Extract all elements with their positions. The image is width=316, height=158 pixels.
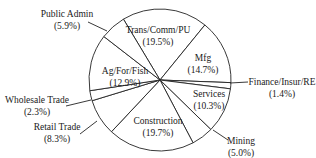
pct-ag: (12.9%): [110, 78, 141, 89]
leader-wholesale: [66, 100, 91, 106]
label-public-admin: Public Admin: [41, 9, 94, 19]
label-mining: Mining: [227, 136, 255, 146]
leader-retail: [80, 121, 97, 134]
pct-wholesale: (2.3%): [24, 107, 50, 118]
leader-public-admin: [88, 22, 107, 31]
label-trans: Trans/Comm/PU: [126, 25, 191, 35]
label-finance: Finance/Insur/RE: [248, 77, 315, 87]
label-retail: Retail Trade: [34, 122, 81, 132]
label-wholesale: Wholesale Trade: [5, 95, 69, 105]
pct-trans: (19.5%): [143, 37, 174, 48]
label-construction: Construction: [133, 116, 182, 126]
pie-chart: Public Admin (5.9%) Trans/Comm/PU (19.5%…: [0, 0, 316, 158]
label-ag: Ag/For/Fish: [102, 66, 149, 76]
leader-finance: [230, 82, 248, 83]
label-services: Services: [193, 89, 225, 99]
pct-services: (10.3%): [194, 101, 225, 112]
pct-retail: (8.3%): [44, 134, 70, 145]
pct-public-admin: (5.9%): [54, 21, 80, 32]
label-mfg: Mfg: [195, 53, 212, 63]
pct-finance: (1.4%): [269, 89, 295, 100]
pct-mining: (5.0%): [228, 148, 254, 158]
leader-mining: [213, 130, 228, 140]
pct-mfg: (14.7%): [188, 65, 219, 76]
pct-construction: (19.7%): [143, 128, 174, 139]
